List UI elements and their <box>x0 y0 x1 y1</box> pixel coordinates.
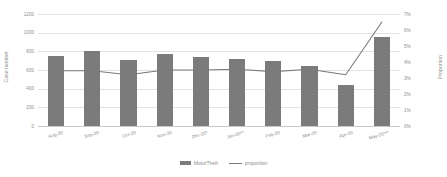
legend-label-motortheft: MotorTheft <box>194 160 218 166</box>
y-tick-label-right: 2% <box>404 92 424 97</box>
x-tick-label: Dec-20* <box>172 130 208 145</box>
plot-area <box>38 14 400 126</box>
legend-label-proportion: proportion <box>245 160 268 166</box>
bar-swatch-icon <box>180 161 191 165</box>
y-tick-label-left: 600 <box>8 68 34 73</box>
y-tick-label-right: 7% <box>404 12 424 17</box>
line-series-proportion <box>38 14 400 126</box>
y-tick-label-right: 6% <box>404 28 424 33</box>
x-axis-line <box>38 126 400 127</box>
y-tick-label-left: 1200 <box>8 12 34 17</box>
x-tick-label: Jan-20** <box>208 130 244 145</box>
y-tick-label-right: 1% <box>404 108 424 113</box>
legend-item-proportion[interactable]: proportion <box>229 160 268 166</box>
x-tick-label: Apr-20 <box>317 130 353 145</box>
line-swatch-icon <box>229 162 242 165</box>
y-axis-right-title: Proportion <box>437 47 443 87</box>
y-tick-label-left: 400 <box>8 86 34 91</box>
y-tick-label-left: 0 <box>8 124 34 129</box>
chart-legend: MotorTheft proportion <box>0 160 447 166</box>
y-tick-label-left: 200 <box>8 105 34 110</box>
x-tick-label: May-20*** <box>353 130 389 145</box>
y-tick-label-right: 5% <box>404 44 424 49</box>
x-tick-label: Mar-20 <box>281 130 317 145</box>
x-tick-label: Oct-20 <box>100 130 136 145</box>
chart-container: Case number Proportion 02004006008001000… <box>0 0 447 177</box>
x-tick-label: Nov-20 <box>136 130 172 145</box>
y-tick-label-right: 3% <box>404 76 424 81</box>
x-tick-label: Aug-20 <box>27 130 63 145</box>
legend-item-motortheft[interactable]: MotorTheft <box>180 160 218 166</box>
y-tick-label-right: 0% <box>404 124 424 129</box>
y-tick-label-right: 4% <box>404 60 424 65</box>
x-tick-label: Feb-20 <box>245 130 281 145</box>
y-tick-label-left: 1000 <box>8 30 34 35</box>
proportion-line <box>56 22 382 75</box>
x-tick-label: Sep-20 <box>64 130 100 145</box>
y-tick-label-left: 800 <box>8 49 34 54</box>
